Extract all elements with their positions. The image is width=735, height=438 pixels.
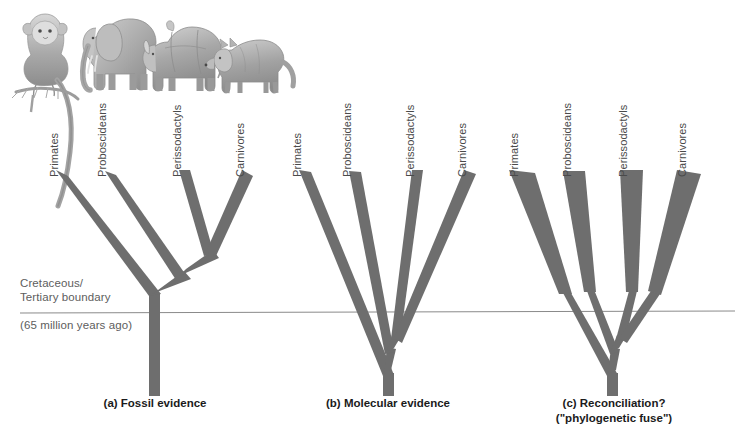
fossil-root-stem [149, 293, 160, 396]
reconciliation-wedge-primates [509, 170, 572, 294]
caption-reconciliation-line2: ("phylogenetic fuse") [556, 412, 672, 424]
figure-canvas [0, 0, 735, 438]
fossil-branch-perissodactyls [179, 170, 214, 256]
taxon-label-molecular-proboscideans: Proboscideans [341, 103, 353, 177]
tree-molecular-evidence [299, 170, 476, 396]
rhinoceros-illustration [143, 21, 222, 91]
kt-boundary-label-line1: Cretaceous/ [20, 277, 83, 289]
molecular-branch-primates [299, 170, 394, 376]
taxon-label-fossil-carnivores: Carnivores [234, 123, 246, 177]
fossil-branch-carnivores [206, 170, 253, 256]
caption-fossil-evidence: (a) Fossil evidence [104, 396, 207, 411]
taxon-label-reconciliation-proboscideans: Proboscideans [561, 103, 573, 177]
reconciliation-root-stem [607, 373, 618, 396]
reconciliation-wedge-perissodactyls [620, 170, 643, 292]
taxon-label-reconciliation-carnivores: Carnivores [676, 123, 688, 177]
phylogeny-figure: Primates Proboscideans Perissodactyls Ca… [0, 0, 735, 438]
taxon-label-molecular-primates: Primates [291, 133, 303, 177]
taxon-label-molecular-carnivores: Carnivores [456, 123, 468, 177]
taxon-label-reconciliation-perissodactyls: Perissodactyls [617, 105, 629, 177]
kt-boundary-label: Cretaceous/ Tertiary boundary [20, 276, 111, 304]
taxon-label-fossil-perissodactyls: Perissodactyls [171, 105, 183, 177]
caption-reconciliation: (c) Reconciliation? ("phylogenetic fuse"… [556, 396, 672, 425]
fossil-branch-proboscideans [105, 171, 188, 283]
taxon-label-fossil-proboscideans: Proboscideans [96, 103, 108, 177]
kt-boundary-age-label: (65 million years ago) [20, 318, 132, 332]
caption-fossil-line1: (a) Fossil evidence [104, 397, 207, 409]
molecular-root-stem [383, 373, 394, 396]
caption-reconciliation-line1: (c) Reconciliation? [563, 397, 666, 409]
taxon-label-fossil-primates: Primates [48, 133, 60, 177]
caption-molecular-line1: (b) Molecular evidence [326, 397, 450, 409]
taxon-label-reconciliation-primates: Primates [508, 133, 520, 177]
caption-molecular-evidence: (b) Molecular evidence [326, 396, 450, 411]
reconciliation-wedge-carnivores [648, 170, 701, 295]
tree-reconciliation [509, 170, 701, 396]
reconciliation-wedge-proboscideans [563, 171, 596, 292]
taxon-label-molecular-perissodactyls: Perissodactyls [404, 105, 416, 177]
kt-boundary-label-line2: Tertiary boundary [20, 291, 111, 303]
